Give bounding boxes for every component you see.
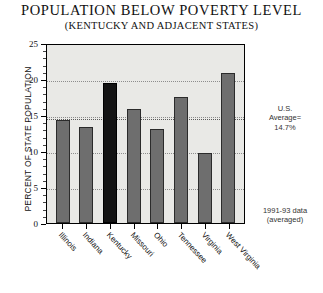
poverty-bar-chart: POPULATION BELOW POVERTY LEVEL (KENTUCKY… <box>0 0 323 293</box>
chart-header: POPULATION BELOW POVERTY LEVEL (KENTUCKY… <box>0 2 323 31</box>
x-label-slot: Missouri <box>122 229 146 291</box>
y-tick-label-0: 0 <box>34 219 39 229</box>
data-note-line-2: (averaged) <box>250 215 320 224</box>
bar-series <box>47 45 244 223</box>
x-label-slot: Tennessee <box>169 229 193 291</box>
data-source-annotation: 1991-93 data (averaged) <box>250 206 320 225</box>
x-label-slot: Indiana <box>74 229 98 291</box>
bar-slot <box>193 45 217 223</box>
x-label-slot: Virginia <box>193 229 217 291</box>
bar-indiana <box>79 127 93 223</box>
bar-slot <box>169 45 193 223</box>
x-label-slot: Illinois <box>50 229 74 291</box>
bar-slot <box>146 45 170 223</box>
y-tick-label-10: 10 <box>29 147 38 157</box>
bar-kentucky <box>103 83 117 223</box>
bar-slot <box>51 45 75 223</box>
data-note-line-1: 1991-93 data <box>250 206 320 215</box>
x-axis-label-west-virginia: West Virginia <box>224 230 263 270</box>
y-tick-label-25: 25 <box>29 39 38 49</box>
bar-slot <box>98 45 122 223</box>
page-title: POPULATION BELOW POVERTY LEVEL <box>0 2 323 19</box>
plot-area <box>46 44 245 224</box>
bar-tennessee <box>174 97 188 223</box>
bar-virginia <box>198 153 212 223</box>
bar-slot <box>122 45 146 223</box>
x-axis-labels: IllinoisIndianaKentuckyMissouriOhioTenne… <box>46 229 245 291</box>
bar-slot <box>216 45 240 223</box>
y-tick-label-5: 5 <box>34 183 39 193</box>
x-label-slot: West Virginia <box>217 229 241 291</box>
y-tick-label-15: 15 <box>29 111 38 121</box>
us-average-line-3: 14.7% <box>250 123 320 132</box>
bar-missouri <box>127 109 141 223</box>
bar-ohio <box>150 129 164 223</box>
us-average-annotation: U.S. Average= 14.7% <box>250 104 320 132</box>
chart-subtitle: (KENTUCKY AND ADJACENT STATES) <box>0 20 323 31</box>
x-axis-label-ohio: Ohio <box>152 230 170 249</box>
bar-slot <box>75 45 99 223</box>
x-label-slot: Ohio <box>146 229 170 291</box>
bar-illinois <box>56 120 70 223</box>
x-label-slot: Kentucky <box>98 229 122 291</box>
bar-west-virginia <box>221 73 235 223</box>
y-tick-label-20: 20 <box>29 75 38 85</box>
us-average-line-1: U.S. <box>250 104 320 113</box>
us-average-line-2: Average= <box>250 113 320 122</box>
